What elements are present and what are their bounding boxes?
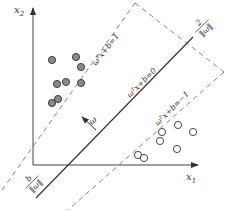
filled-data-point [54, 95, 61, 102]
positive-margin-line [2, 3, 135, 190]
y-axis-label: x2 [14, 4, 25, 18]
margin-box-top-edge [135, 3, 224, 72]
filled-data-point [77, 79, 84, 86]
normal-vector-label: ω [86, 114, 99, 127]
open-data-point [156, 137, 163, 144]
x-axis-label: x1 [186, 171, 196, 185]
open-data-point [158, 128, 165, 135]
open-data-point [189, 128, 196, 135]
filled-data-point [53, 80, 60, 87]
filled-data-point [62, 78, 69, 85]
open-data-point [140, 154, 147, 161]
svm-diagram: x2 x1 ω ωᵀx+b=1 ωᵀx+b=0 ωᵀx+b=−1 2 ‖ω‖ b… [0, 0, 230, 212]
filled-data-point [77, 63, 84, 70]
decision-boundary-label: ωᵀx+b=0 [125, 66, 158, 99]
open-data-point [174, 121, 181, 128]
filled-data-point [48, 56, 55, 63]
decision-boundary-line [36, 37, 193, 198]
filled-data-point [72, 53, 79, 60]
positive-margin-label: ωᵀx+b=1 [90, 32, 120, 67]
negative-class-points [134, 121, 196, 161]
negative-margin-label: ωᵀx+b=−1 [153, 89, 191, 127]
open-data-point [173, 145, 180, 152]
margin-width-annotation: 2 ‖ω‖ [189, 13, 215, 39]
